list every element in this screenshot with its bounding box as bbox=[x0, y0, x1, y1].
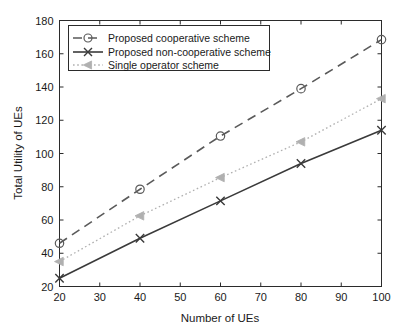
x-tick-label: 30 bbox=[94, 291, 106, 303]
y-tick-label: 20 bbox=[41, 281, 53, 293]
x-tick-label: 70 bbox=[255, 291, 267, 303]
x-tick-label: 40 bbox=[134, 291, 146, 303]
legend-label: Proposed non-cooperative scheme bbox=[108, 46, 271, 58]
chart-legend: Proposed cooperative schemeProposed non-… bbox=[69, 26, 272, 71]
x-axis-label: Number of UEs bbox=[181, 312, 260, 324]
legend-label: Single operator scheme bbox=[108, 59, 219, 71]
x-tick-label: 100 bbox=[372, 291, 390, 303]
chart-figure: 2030405060708090100 20406080100120140160… bbox=[0, 0, 420, 332]
y-tick-label: 80 bbox=[41, 181, 53, 193]
x-axis-tick-labels: 2030405060708090100 bbox=[53, 291, 390, 303]
y-axis-label: Total Utility of UEs bbox=[12, 106, 24, 200]
y-tick-label: 160 bbox=[35, 48, 53, 60]
y-tick-label: 100 bbox=[35, 148, 53, 160]
y-tick-label: 140 bbox=[35, 81, 53, 93]
legend-label: Proposed cooperative scheme bbox=[108, 32, 250, 44]
x-tick-label: 20 bbox=[53, 291, 65, 303]
x-tick-label: 50 bbox=[174, 291, 186, 303]
y-tick-label: 120 bbox=[35, 114, 53, 126]
x-tick-label: 60 bbox=[214, 291, 226, 303]
y-tick-label: 180 bbox=[35, 15, 53, 27]
y-tick-label: 40 bbox=[41, 247, 53, 259]
line-chart: 2030405060708090100 20406080100120140160… bbox=[0, 0, 420, 332]
x-tick-label: 90 bbox=[335, 291, 347, 303]
x-tick-label: 80 bbox=[295, 291, 307, 303]
y-tick-label: 60 bbox=[41, 214, 53, 226]
